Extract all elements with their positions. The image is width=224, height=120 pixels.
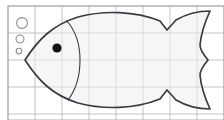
figure-canvas (0, 0, 224, 120)
fish-drawing-svg (0, 0, 224, 120)
fish-eye (52, 43, 61, 52)
